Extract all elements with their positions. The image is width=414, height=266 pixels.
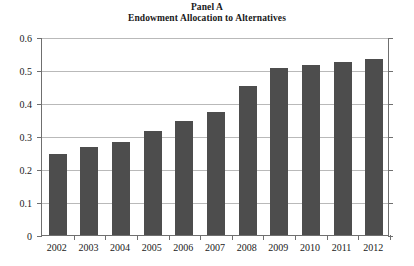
bars-series (42, 38, 388, 235)
x-axis-tick-mark (263, 235, 264, 240)
y-axis-tick-mark-right (388, 38, 393, 39)
chart-title: Panel A (0, 2, 414, 13)
x-axis-tick-mark (74, 235, 75, 240)
bar (49, 154, 67, 235)
bar (334, 62, 352, 235)
bar (270, 68, 288, 235)
chart-subtitle: Endowment Allocation to Alternatives (0, 13, 414, 24)
x-axis-tick-mark (295, 235, 296, 240)
chart-figure: Panel A Endowment Allocation to Alternat… (0, 0, 414, 266)
x-axis-tick-mark (137, 235, 138, 240)
bar (302, 65, 320, 235)
y-axis-tick-mark-right (388, 104, 393, 105)
y-axis-tick-label: 0.2 (0, 165, 32, 176)
x-axis-tick-mark (232, 235, 233, 240)
chart-title-block: Panel A Endowment Allocation to Alternat… (0, 2, 414, 24)
y-axis-tick-label: 0.3 (0, 132, 32, 143)
bar (365, 59, 383, 235)
plot-area (41, 38, 389, 236)
x-axis-tick-label: 2012 (353, 242, 393, 253)
x-axis-tick-mark (200, 235, 201, 240)
y-axis-tick-mark-right (388, 137, 393, 138)
y-axis-tick-mark-right (388, 71, 393, 72)
x-axis-tick-mark (105, 235, 106, 240)
x-axis-tick-mark (390, 235, 391, 240)
bar (144, 131, 162, 235)
x-axis-tick-mark (169, 235, 170, 240)
bar (80, 147, 98, 235)
bar (239, 86, 257, 235)
y-axis-tick-label: 0.1 (0, 198, 32, 209)
y-axis-tick-mark (37, 236, 42, 237)
bar (112, 142, 130, 235)
bar (175, 121, 193, 235)
y-axis-tick-mark-right (388, 170, 393, 171)
y-axis-tick-label: 0.4 (0, 99, 32, 110)
y-axis-tick-label: 0.5 (0, 66, 32, 77)
y-axis-tick-label: 0.6 (0, 33, 32, 44)
x-axis-tick-mark (327, 235, 328, 240)
y-axis-tick-label: 0 (0, 231, 32, 242)
y-axis-tick-mark-right (388, 203, 393, 204)
x-axis-tick-mark (358, 235, 359, 240)
bar (207, 112, 225, 235)
